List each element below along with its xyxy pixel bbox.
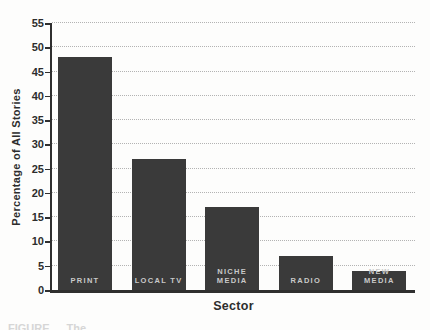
y-tick-mark-0: [45, 290, 50, 292]
y-tick-mark-40: [45, 96, 50, 98]
y-tick-mark-45: [45, 72, 50, 74]
bar-new-media: NEWMEDIA: [352, 271, 406, 290]
gridline-50: [52, 46, 415, 47]
y-tick-label-35: 35: [22, 114, 44, 126]
bar-label: PRINT: [71, 276, 100, 285]
y-tick-label-25: 25: [22, 163, 44, 175]
bar-label: MEDIA: [217, 276, 248, 285]
y-tick-label-10: 10: [22, 235, 44, 247]
bar-label: NICHE: [217, 267, 247, 276]
y-tick-label-40: 40: [22, 90, 44, 102]
plot-area: PRINTLOCAL TVNICHEMEDIARADIONEWMEDIA: [50, 23, 415, 293]
y-tick-label-55: 55: [22, 17, 44, 29]
y-tick-mark-30: [45, 144, 50, 146]
bar-local-tv: LOCAL TV: [132, 159, 186, 290]
x-axis-title: Sector: [52, 299, 415, 313]
bar-niche-media: NICHEMEDIA: [205, 207, 259, 290]
bar-chart-figure: Percentage of All Stories PRINTLOCAL TVN…: [0, 0, 430, 330]
gridline-55: [52, 22, 415, 23]
y-tick-mark-20: [45, 193, 50, 195]
y-tick-label-50: 50: [22, 41, 44, 53]
bar-label: LOCAL TV: [135, 276, 183, 285]
y-tick-label-45: 45: [22, 66, 44, 78]
y-tick-mark-35: [45, 120, 50, 122]
y-tick-mark-50: [45, 47, 50, 49]
y-tick-label-5: 5: [22, 260, 44, 272]
y-tick-label-15: 15: [22, 211, 44, 223]
caption-fragment: FIGURE The: [8, 322, 422, 330]
y-tick-mark-25: [45, 169, 50, 171]
bar-print: PRINT: [58, 57, 112, 290]
y-tick-label-20: 20: [22, 187, 44, 199]
bar-radio: RADIO: [279, 256, 333, 290]
y-tick-label-30: 30: [22, 138, 44, 150]
y-tick-mark-15: [45, 217, 50, 219]
bar-label: NEW: [369, 267, 390, 276]
bar-label: RADIO: [290, 276, 321, 285]
bar-label: MEDIA: [364, 276, 395, 285]
y-axis-title: Percentage of All Stories: [10, 65, 22, 250]
y-tick-mark-10: [45, 241, 50, 243]
y-tick-mark-5: [45, 266, 50, 268]
y-tick-mark-55: [45, 23, 50, 25]
y-tick-label-0: 0: [22, 284, 44, 296]
